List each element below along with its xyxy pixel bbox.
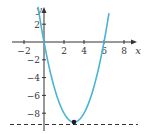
y-tick-label: −4	[27, 73, 41, 83]
parabola-curve	[38, 7, 109, 122]
x-tick-label: 2	[61, 46, 67, 56]
y-tick-label: 2	[34, 20, 40, 30]
y-tick-label: −8	[27, 109, 41, 119]
y-axis-arrow-icon	[42, 7, 47, 13]
x-axis-label: x	[135, 45, 141, 56]
x-tick-label: 8	[121, 46, 127, 56]
x-tick-label: 4	[81, 46, 87, 56]
y-tick-label: −2	[27, 55, 40, 65]
parabola-chart: −2 2 4 6 8 x 2 −2 −4 −6 −8 y	[0, 0, 148, 134]
y-tick-label: −6	[27, 91, 41, 101]
x-axis-arrow-icon	[131, 40, 137, 45]
vertex-point	[72, 120, 77, 125]
